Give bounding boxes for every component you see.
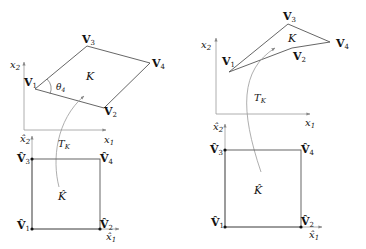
vertex-v3: V3 bbox=[282, 10, 296, 24]
ref-vertex-v1: V̂1 bbox=[16, 219, 30, 233]
vertex-v4: V4 bbox=[151, 57, 166, 71]
ref-vertex-v2: V̂2 bbox=[300, 215, 314, 229]
left-panel: x2 x1 θ4 K V1 V2 V3 V4 TK x̂2 x̂1 K̂ V̂1… bbox=[10, 33, 166, 244]
ref-vertex-dot bbox=[223, 148, 226, 151]
ref-vertex-dot bbox=[30, 227, 33, 230]
vertex-v1: V1 bbox=[221, 55, 235, 69]
mapping-label: TK bbox=[58, 138, 71, 151]
x1-axis-label: x1 bbox=[305, 117, 315, 130]
ref-x2-axis-label: x̂2 bbox=[20, 133, 31, 146]
vertex-v1: V1 bbox=[23, 76, 37, 90]
quadrilateral-mapping-diagram: x2 x1 θ4 K V1 V2 V3 V4 TK x̂2 x̂1 K̂ V̂1… bbox=[0, 0, 366, 249]
element-k bbox=[229, 24, 330, 72]
mapping-curve bbox=[247, 48, 275, 172]
ref-vertex-v1: V̂1 bbox=[210, 216, 224, 230]
element-label: K bbox=[287, 32, 297, 45]
x1-axis-label: x1 bbox=[104, 134, 114, 147]
ref-vertex-v4: V̂4 bbox=[99, 152, 114, 166]
vertex-v2: V2 bbox=[103, 105, 117, 119]
angle-arc bbox=[47, 79, 51, 94]
ref-vertex-v4: V̂4 bbox=[300, 143, 315, 157]
ref-vertex-dot bbox=[30, 157, 33, 160]
ref-vertex-v3: V̂3 bbox=[209, 143, 223, 157]
right-panel: x2 x1 K V1 V2 V3 V4 TK x̂2 x̂1 K̂ V̂1 V̂… bbox=[201, 10, 350, 242]
ref-x1-axis-label: x̂1 bbox=[106, 231, 116, 244]
ref-element-label: K̂ bbox=[57, 190, 67, 203]
x2-axis-label: x2 bbox=[201, 39, 212, 52]
vertex-v2: V2 bbox=[292, 50, 306, 64]
angle-label: θ4 bbox=[56, 82, 65, 93]
vertex-v4: V4 bbox=[335, 37, 350, 51]
ref-vertex-v2: V̂2 bbox=[99, 218, 113, 232]
element-label: K bbox=[85, 70, 95, 83]
ref-x1-axis-label: x̂1 bbox=[309, 229, 319, 242]
x2-axis-label: x2 bbox=[10, 59, 21, 72]
mapping-label: TK bbox=[254, 92, 267, 105]
ref-x2-axis-label: x̂2 bbox=[213, 121, 224, 134]
vertex-v3: V3 bbox=[81, 33, 95, 47]
reference-element bbox=[225, 150, 301, 227]
ref-element-label: K̂ bbox=[253, 184, 263, 197]
ref-vertex-v3: V̂3 bbox=[16, 152, 30, 166]
